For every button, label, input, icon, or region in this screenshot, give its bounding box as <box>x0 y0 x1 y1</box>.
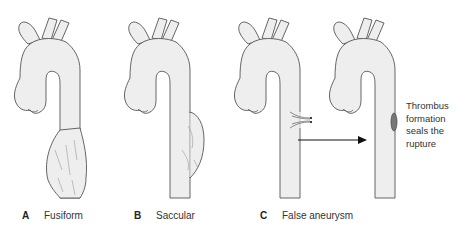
panel-caption-b: Saccular <box>156 210 195 221</box>
panel-label-b: BSaccular <box>134 210 195 221</box>
progression-arrow <box>298 136 367 144</box>
panel-caption-a: Fusiform <box>44 210 83 221</box>
annotation-line: formation <box>406 113 449 126</box>
panel-label-c: CFalse aneurysm <box>260 210 353 221</box>
aorta-false-aneurysm <box>234 18 312 198</box>
panel-letter-a: A <box>22 210 44 221</box>
annotation-line: Thrombus <box>406 100 449 113</box>
aorta-saccular <box>124 18 204 198</box>
panel-label-a: AFusiform <box>22 210 83 221</box>
annotation-line: seals the <box>406 125 449 138</box>
thrombus-annotation: Thrombus formation seals the rupture <box>406 100 449 150</box>
panel-caption-c: False aneurysm <box>282 210 353 221</box>
aorta-fusiform <box>14 18 86 198</box>
annotation-line: rupture <box>406 138 449 151</box>
aorta-thrombus-sealed <box>329 18 397 198</box>
panel-letter-c: C <box>260 210 282 221</box>
aneurysm-diagram <box>0 0 465 229</box>
panel-letter-b: B <box>134 210 156 221</box>
thrombus <box>391 113 397 131</box>
